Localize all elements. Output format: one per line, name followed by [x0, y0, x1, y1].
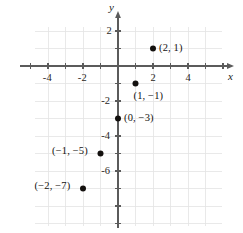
- coordinate-plane-figure: -4-224 2-2-4-6 (2, 1)(1, −1)(0, −3)(−1, …: [0, 0, 243, 233]
- x-axis-label: x: [228, 71, 233, 82]
- y-tick-label-3: -6: [101, 166, 110, 177]
- data-point-1: [133, 81, 139, 87]
- point-label-4: (−2, −7): [35, 181, 71, 192]
- y-tick-label-1: -2: [101, 96, 110, 107]
- grid-lines-horizontal: [35, 31, 223, 224]
- data-point-2: [115, 116, 121, 122]
- data-point-3: [98, 151, 104, 157]
- point-label-2: (0, −3): [124, 113, 154, 124]
- y-axis-label: y: [109, 2, 114, 13]
- x-axis-arrow-icon: [227, 63, 234, 69]
- point-label-1: (1, −1): [134, 91, 164, 102]
- y-tick-label-2: -4: [101, 131, 110, 142]
- x-tick-label-3: 4: [185, 73, 190, 84]
- y-tick-label-0: 2: [107, 26, 112, 37]
- grid-lines-vertical: [48, 27, 206, 226]
- x-tick-label-0: -4: [43, 73, 52, 84]
- point-label-0: (2, 1): [159, 43, 183, 54]
- x-tick-label-2: 2: [150, 73, 155, 84]
- y-axis-arrow-icon: [115, 11, 121, 18]
- data-point-4: [80, 186, 86, 192]
- point-label-3: (−1, −5): [52, 146, 88, 157]
- data-point-0: [150, 46, 156, 52]
- plot-canvas: [0, 0, 243, 233]
- x-tick-label-1: -2: [78, 73, 87, 84]
